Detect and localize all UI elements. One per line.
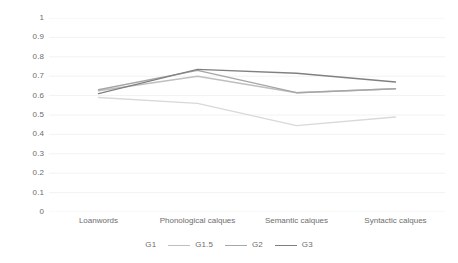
legend-label: G2 (252, 241, 263, 249)
legend-item[interactable]: G1.5 (168, 241, 213, 249)
y-axis-tick-label: 0.1 (18, 189, 44, 197)
chart-legend: G1G1.5G2G3 (0, 238, 458, 252)
x-axis: LoanwordsPhonological calquesSemantic ca… (49, 216, 445, 230)
plot-svg (49, 18, 445, 212)
series-line-g2 (99, 70, 396, 92)
y-axis-tick-label: 0.8 (18, 53, 44, 61)
series-line-g1 (99, 98, 396, 126)
line-chart: 10.90.80.70.60.50.40.30.20.10 LoanwordsP… (0, 0, 458, 263)
y-axis-tick-label: 0.4 (18, 130, 44, 138)
x-axis-tick-label: Semantic calques (247, 216, 346, 230)
legend-item[interactable]: G3 (275, 241, 313, 249)
legend-label: G1 (145, 241, 156, 249)
y-axis-tick-label: 0.2 (18, 169, 44, 177)
y-axis-tick-label: 0 (18, 208, 44, 216)
y-axis: 10.90.80.70.60.50.40.30.20.10 (18, 0, 44, 263)
y-axis-tick-label: 0.7 (18, 72, 44, 80)
legend-line-swatch-icon (275, 245, 297, 246)
y-axis-tick-label: 0.6 (18, 92, 44, 100)
legend-line-swatch-icon (225, 245, 247, 246)
y-axis-tick-label: 0.9 (18, 33, 44, 41)
legend-item[interactable]: G1 (145, 241, 156, 249)
y-axis-tick-label: 1 (18, 14, 44, 22)
plot-area (49, 18, 445, 212)
legend-label: G3 (302, 241, 313, 249)
legend-label: G1.5 (195, 241, 213, 249)
x-axis-tick-label: Loanwords (49, 216, 148, 230)
legend-item[interactable]: G2 (225, 241, 263, 249)
y-axis-tick-label: 0.5 (18, 111, 44, 119)
x-axis-tick-label: Syntactic calques (346, 216, 445, 230)
legend-line-swatch-icon (168, 245, 190, 246)
x-axis-tick-label: Phonological calques (148, 216, 247, 230)
y-axis-tick-label: 0.3 (18, 150, 44, 158)
